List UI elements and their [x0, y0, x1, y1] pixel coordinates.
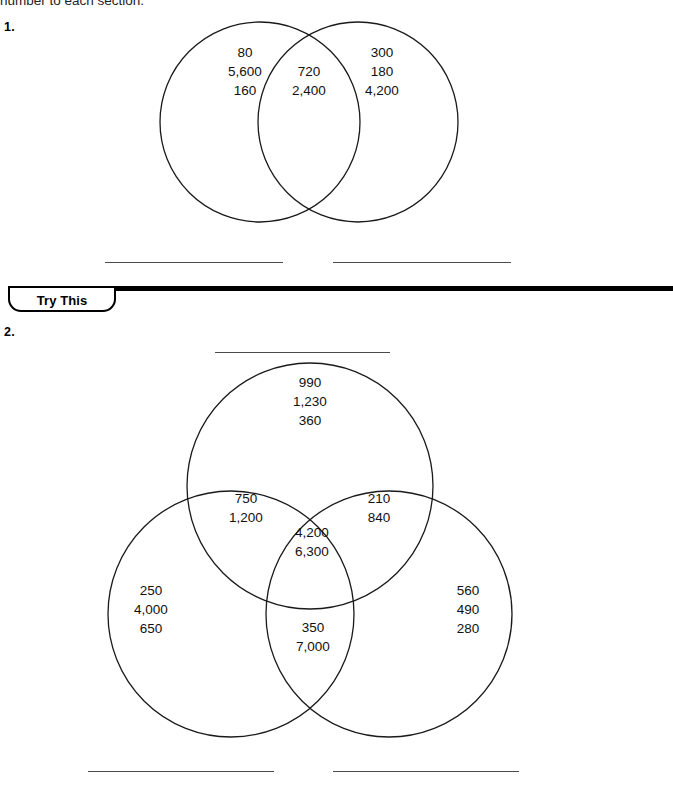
problem-1-answer-line-2[interactable] — [333, 262, 511, 263]
instruction-text: number to each section. — [0, 0, 144, 9]
three-circle-venn-diagram: 990 1,230 360 750 1,200 210 840 4,200 6,… — [105, 361, 515, 741]
problem-2-number: 2. — [4, 325, 15, 339]
venn1-left-circle — [160, 22, 360, 222]
problem-2-answer-line-top[interactable] — [215, 352, 390, 353]
venn-2-svg — [105, 361, 515, 741]
problem-2-answer-line-2[interactable] — [333, 771, 519, 772]
venn2-right-circle — [266, 491, 512, 737]
two-circle-venn-diagram: 80 5,600 160 720 2,400 300 180 4,200 — [155, 16, 465, 228]
venn2-left-circle — [108, 491, 354, 737]
problem-1-number: 1. — [4, 20, 15, 34]
venn2-top-circle — [187, 363, 433, 609]
problem-1-answer-line-1[interactable] — [105, 262, 283, 263]
problem-2-answer-line-1[interactable] — [88, 771, 274, 772]
worksheet-page: number to each section. 1. 80 5,600 160 … — [0, 0, 673, 788]
try-this-banner: Try This — [0, 286, 673, 316]
venn1-right-circle — [258, 22, 458, 222]
banner-label: Try This — [8, 287, 116, 313]
venn-1-svg — [155, 16, 465, 228]
